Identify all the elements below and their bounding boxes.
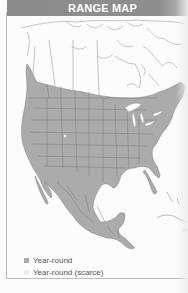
header-bar: RANGE MAP <box>7 0 188 16</box>
legend-label: Year-round (scarce) <box>33 268 103 277</box>
legend-item-year-round: Year-round <box>24 254 103 266</box>
page-edge-shadow <box>176 0 188 293</box>
range-map-panel: RANGE MAP <box>0 0 188 293</box>
range-map <box>7 16 188 256</box>
year-round-scarce-swatch <box>24 270 29 275</box>
great-salt-lake <box>64 135 66 137</box>
legend-label: Year-round <box>33 256 72 265</box>
year-round-swatch <box>24 258 29 263</box>
bottom-border <box>6 278 188 279</box>
map-legend: Year-round Year-round (scarce) <box>24 254 103 278</box>
page-title: RANGE MAP <box>68 2 137 14</box>
legend-item-year-round-scarce: Year-round (scarce) <box>24 266 103 278</box>
